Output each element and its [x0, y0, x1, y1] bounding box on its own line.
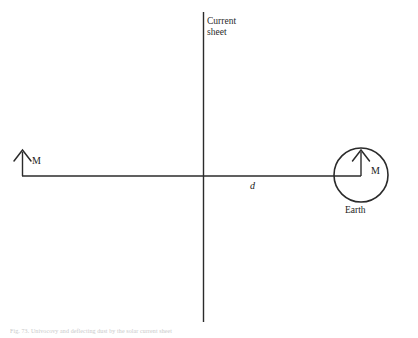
figure-container: Current sheet M M d Earth Fig. 73. Univo…: [0, 0, 418, 338]
distance-label: d: [250, 180, 255, 191]
diagram-canvas: [0, 0, 418, 338]
moment-label-left: M: [32, 155, 41, 166]
figure-caption: Fig. 73. Univocovy and deflecting dust b…: [10, 328, 410, 334]
moment-label-earth: M: [371, 165, 380, 176]
earth-label: Earth: [345, 205, 366, 216]
current-sheet-label: Current sheet: [207, 16, 236, 37]
